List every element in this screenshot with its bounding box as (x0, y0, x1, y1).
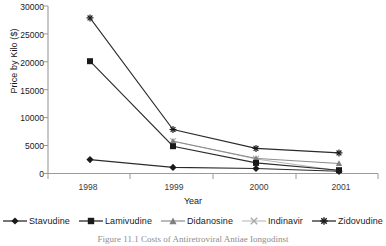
axis-lines (44, 6, 378, 179)
figure-caption: Figure 11.1 Costs of Antiretroviral Anti… (0, 234, 386, 244)
star-marker-icon (312, 216, 336, 226)
legend-item-zidovudine[interactable]: Zidovudine (312, 216, 383, 226)
legend-item-didanosine[interactable]: Didanosine (161, 216, 233, 226)
chart-plot-area: Price by Kilo ($) 30000 25000 20000 1500… (0, 0, 386, 200)
square-marker-icon (79, 216, 103, 226)
series-lamivudine (87, 58, 342, 173)
legend-label: Zidovudine (338, 216, 383, 226)
legend-label: Stavudine (29, 216, 70, 226)
series-zidovudine (87, 14, 343, 156)
legend-label: Indinavir (268, 216, 303, 226)
legend-item-stavudine[interactable]: Stavudine (3, 216, 70, 226)
legend-item-lamivudine[interactable]: Lamivudine (79, 216, 152, 226)
x-marker-icon (242, 216, 266, 226)
legend-label: Lamivudine (105, 216, 152, 226)
triangle-marker-icon (161, 216, 185, 226)
chart-svg (0, 0, 386, 200)
legend-item-indinavir[interactable]: Indinavir (242, 216, 303, 226)
diamond-marker-icon (3, 216, 27, 226)
legend-label: Didanosine (187, 216, 233, 226)
figure-container: Price by Kilo ($) 30000 25000 20000 1500… (0, 0, 386, 246)
chart-legend: Stavudine Lamivudine Didanosine (0, 216, 386, 226)
